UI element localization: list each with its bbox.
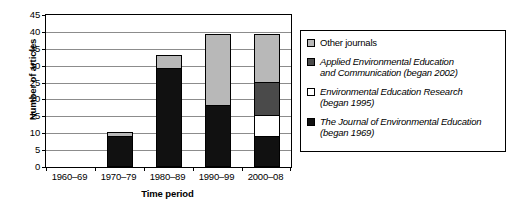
- bar-group: [193, 15, 242, 167]
- y-axis-tick-labels: 454035302520151050: [18, 14, 40, 166]
- bar-group: [46, 15, 95, 167]
- legend-label: Other journals: [320, 37, 377, 49]
- y-tick-label: 15: [18, 111, 40, 121]
- legend-item[interactable]: The Journal of Environmental Education(b…: [307, 116, 500, 139]
- y-tick-label: 30: [18, 61, 40, 71]
- x-axis-tick-labels: 1960–691970–791980–891990–992000–08: [45, 171, 290, 185]
- y-tick-label: 45: [18, 10, 40, 20]
- bar-segment[interactable]: [254, 34, 280, 83]
- y-tick-label: 40: [18, 27, 40, 37]
- legend-item[interactable]: Other journals: [307, 37, 500, 49]
- bar-segment[interactable]: [205, 34, 231, 106]
- bar-segment[interactable]: [107, 136, 133, 167]
- y-tick-label: 10: [18, 128, 40, 138]
- y-tick-label: 20: [18, 94, 40, 104]
- stacked-bar-chart-figure: Number of articles 454035302520151050 19…: [0, 0, 513, 212]
- legend-swatch-icon: [307, 39, 315, 47]
- legend-swatch-icon: [307, 58, 315, 66]
- bar-segment[interactable]: [254, 136, 280, 167]
- bar-segment[interactable]: [156, 55, 182, 69]
- x-tick-label: 1960–69: [45, 171, 94, 182]
- bar-segment[interactable]: [107, 132, 133, 137]
- legend-label-line2: (began 1995): [320, 97, 374, 108]
- x-axis-title: Time period: [45, 188, 290, 199]
- legend-label: Environmental Education Research(began 1…: [320, 86, 463, 109]
- legend-label-line2: (began 1969): [320, 127, 374, 138]
- y-tick-label: 5: [18, 145, 40, 155]
- y-tick-label: 0: [18, 162, 40, 172]
- x-tick-label: 2000–08: [241, 171, 290, 182]
- bar-series-container: [46, 15, 291, 167]
- x-tick-mark: [290, 167, 291, 171]
- x-tick-label: 1970–79: [94, 171, 143, 182]
- bar-segment[interactable]: [254, 82, 280, 116]
- chart-legend: Other journalsApplied Environmental Educ…: [300, 30, 506, 152]
- legend-label-line1: Environmental Education Research: [320, 86, 463, 97]
- x-tick-label: 1980–89: [143, 171, 192, 182]
- legend-label-line1: Applied Environmental Education: [320, 56, 454, 67]
- legend-swatch-icon: [307, 118, 315, 126]
- legend-label: Applied Environmental Educationand Commu…: [320, 56, 458, 79]
- bar-group: [242, 15, 291, 167]
- legend-item[interactable]: Environmental Education Research(began 1…: [307, 86, 500, 109]
- bar-group: [95, 15, 144, 167]
- legend-label-line1: Other journals: [320, 37, 377, 48]
- bar-group: [144, 15, 193, 167]
- legend-swatch-icon: [307, 88, 315, 96]
- bar-segment[interactable]: [254, 115, 280, 137]
- plot-area: [45, 14, 292, 168]
- bar-segment[interactable]: [156, 68, 182, 167]
- legend-label: The Journal of Environmental Education(b…: [320, 116, 481, 139]
- bar-segment[interactable]: [205, 105, 231, 167]
- legend-label-line1: The Journal of Environmental Education: [320, 116, 481, 127]
- legend-label-line2: and Communication (began 2002): [320, 67, 458, 78]
- x-tick-label: 1990–99: [192, 171, 241, 182]
- legend-item[interactable]: Applied Environmental Educationand Commu…: [307, 56, 500, 79]
- y-tick-label: 35: [18, 44, 40, 54]
- y-tick-label: 25: [18, 78, 40, 88]
